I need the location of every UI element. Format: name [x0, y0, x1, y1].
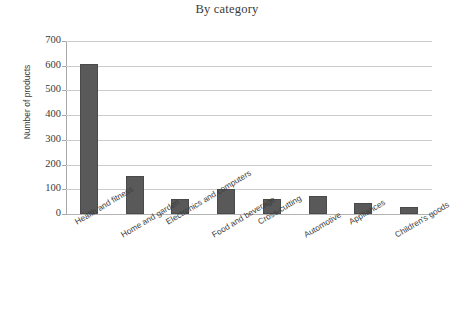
chart-title: By category — [0, 2, 454, 17]
x-tick-label: Automotive — [302, 210, 343, 240]
bar[interactable] — [400, 207, 418, 214]
y-tick-label-700: 700 — [0, 34, 61, 45]
x-axis-tick-labels: Health and fitnessHome and gardenElectro… — [0, 215, 454, 315]
y-tick-label-100: 100 — [0, 182, 61, 193]
y-tick-label-400: 400 — [0, 108, 61, 119]
bar-chart-figure: By category Number of products 010020030… — [0, 0, 454, 315]
bar[interactable] — [309, 196, 327, 214]
y-tick-label-300: 300 — [0, 133, 61, 144]
bar[interactable] — [80, 64, 98, 214]
y-tick-label-500: 500 — [0, 83, 61, 94]
y-tick-label-600: 600 — [0, 59, 61, 70]
y-tick-label-200: 200 — [0, 158, 61, 169]
